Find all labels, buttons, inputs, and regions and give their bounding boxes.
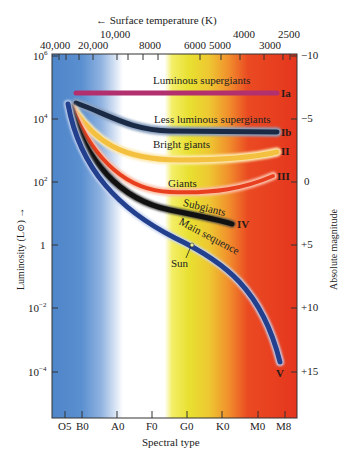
class-v: V [276, 367, 284, 379]
ytick-1em2: 10−2 [28, 301, 46, 314]
top-ticks [59, 54, 290, 60]
class-iii: III [277, 170, 290, 182]
mag-tick-m5: −5 [301, 112, 313, 124]
spectral-O5: O5 [58, 420, 71, 432]
y-axis-right-title: Absolute magnitude [328, 209, 339, 290]
ytick-1e2: 102 [33, 175, 48, 188]
ytick-1e4: 104 [33, 112, 48, 125]
spectral-M8: M8 [276, 420, 291, 432]
chart-svg [0, 0, 351, 463]
class-ii: II [281, 145, 290, 157]
label-less-luminous-supergiants: Less luminous supergiants [154, 113, 271, 125]
label-luminous-supergiants: Luminous supergiants [153, 74, 250, 86]
spectral-F0: F0 [146, 420, 158, 432]
class-ia: Ia [281, 87, 291, 99]
ytick-1: 1 [40, 239, 46, 251]
class-ib: Ib [281, 126, 291, 138]
mag-tick-p10: +10 [301, 301, 318, 313]
spectral-M0: M0 [250, 420, 265, 432]
label-sun: Sun [171, 257, 188, 269]
spectral-K0: K0 [216, 420, 229, 432]
y-axis-left-title: Luminosity (L⊙) → [15, 208, 26, 290]
mag-tick-m10: −10 [301, 49, 318, 61]
ytick-1em4: 10−4 [28, 365, 46, 378]
mag-tick-p15: +15 [301, 365, 318, 377]
label-giants: Giants [168, 177, 197, 189]
spectral-B0: B0 [76, 420, 89, 432]
ytick-1e6: 106 [33, 49, 48, 62]
spectral-A0: A0 [111, 420, 124, 432]
spectral-G0: G0 [180, 420, 193, 432]
mag-tick-p5: +5 [301, 238, 313, 250]
x-axis-title: Spectral type [142, 436, 200, 448]
mag-tick-0: 0 [304, 175, 310, 187]
label-bright-giants: Bright giants [153, 138, 210, 150]
class-iv: IV [237, 218, 249, 230]
